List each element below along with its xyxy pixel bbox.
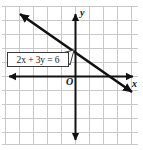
coordinate-plane-svg (0, 0, 143, 150)
y-axis-label: y (80, 7, 84, 18)
equation-text: 2x + 3y = 6 (17, 55, 60, 65)
x-axis-label: x (132, 78, 137, 89)
graph-figure: 2x + 3y = 6 y x O (0, 0, 143, 150)
origin-label: O (66, 76, 73, 87)
equation-label: 2x + 3y = 6 (7, 52, 69, 67)
